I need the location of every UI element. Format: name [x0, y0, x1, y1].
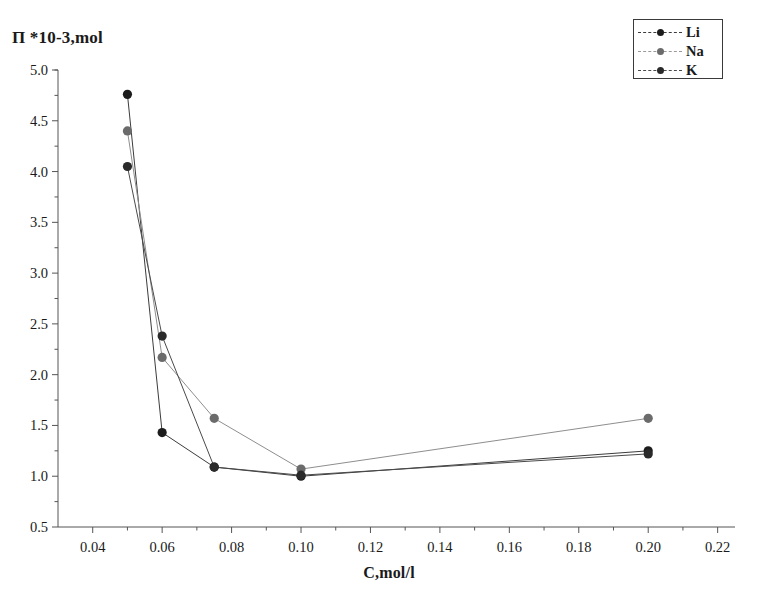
- y-tick-label: 4.5: [8, 112, 48, 129]
- legend-item-li[interactable]: Li: [638, 22, 720, 42]
- y-tick-label: 3.0: [8, 265, 48, 282]
- y-tick-label: 3.5: [8, 214, 48, 231]
- y-tick-label: 1.0: [8, 468, 48, 485]
- x-tick-label: 0.08: [219, 539, 244, 556]
- y-tick-label: 5.0: [8, 62, 48, 79]
- x-tick-label: 0.12: [358, 539, 383, 556]
- series-line-k: [127, 166, 648, 475]
- legend-item-k[interactable]: K: [638, 60, 720, 80]
- x-tick-label: 0.10: [288, 539, 313, 556]
- data-point-na: [158, 353, 167, 362]
- chart-figure: П *10-3,mol C,mol/l 0.51.01.52.02.53.03.…: [0, 0, 778, 600]
- y-tick-label: 2.5: [8, 315, 48, 332]
- y-tick-label: 2.0: [8, 366, 48, 383]
- x-tick-label: 0.16: [497, 539, 522, 556]
- data-point-k: [158, 331, 167, 340]
- legend-item-na[interactable]: Na: [638, 41, 720, 61]
- data-point-k: [123, 162, 132, 171]
- y-tick-label: 4.0: [8, 163, 48, 180]
- data-point-na: [210, 414, 219, 423]
- y-tick-label: 0.5: [8, 519, 48, 536]
- series-line-na: [127, 131, 648, 469]
- data-point-na: [123, 126, 132, 135]
- data-point-li: [123, 90, 132, 99]
- data-point-li: [158, 428, 167, 437]
- legend-swatch-k: [638, 63, 682, 77]
- chart-legend: Li Na K: [633, 19, 723, 79]
- y-tick-label: 1.5: [8, 417, 48, 434]
- x-tick-label: 0.22: [705, 539, 730, 556]
- x-tick-label: 0.14: [427, 539, 452, 556]
- legend-label-k: K: [682, 63, 697, 78]
- legend-marker-icon: [657, 48, 664, 55]
- legend-swatch-li: [638, 25, 682, 39]
- legend-swatch-na: [638, 44, 682, 58]
- series-line-li: [127, 94, 648, 476]
- data-point-k: [644, 449, 653, 458]
- x-tick-label: 0.18: [566, 539, 591, 556]
- legend-label-na: Na: [682, 44, 704, 59]
- data-point-k: [296, 471, 305, 480]
- x-tick-label: 0.06: [149, 539, 174, 556]
- x-tick-label: 0.20: [636, 539, 661, 556]
- legend-label-li: Li: [682, 25, 700, 40]
- plot-area: [0, 0, 778, 600]
- x-tick-label: 0.04: [80, 539, 105, 556]
- data-point-k: [210, 462, 219, 471]
- data-point-na: [644, 414, 653, 423]
- legend-marker-icon: [657, 67, 664, 74]
- legend-marker-icon: [657, 29, 664, 36]
